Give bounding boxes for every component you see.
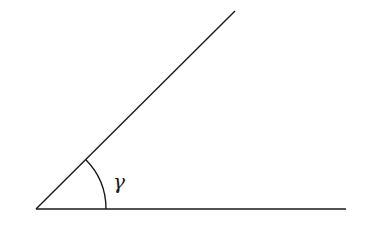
angle-diagram: γ (0, 0, 368, 227)
angle-arc (86, 160, 106, 209)
inclined-ray (36, 11, 235, 209)
angle-label-gamma: γ (113, 170, 125, 194)
